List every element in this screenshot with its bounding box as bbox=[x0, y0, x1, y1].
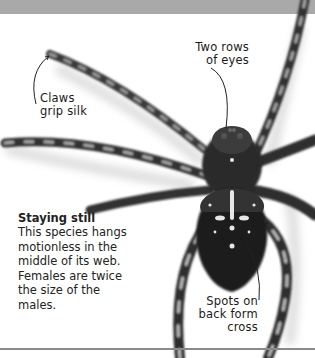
bottom-divider bbox=[0, 348, 315, 350]
annotation-eyes: Two rows of eyes bbox=[157, 41, 249, 67]
annotation-spots: Spots on back form cross bbox=[190, 295, 258, 334]
caption: Staying still This species hangs motionl… bbox=[18, 211, 130, 312]
annotation-claws-line2: grip silk bbox=[40, 105, 87, 118]
annotation-spots-line3: cross bbox=[190, 321, 258, 334]
caption-body: This species hangs motionless in the mid… bbox=[18, 225, 130, 312]
caption-title: Staying still bbox=[18, 211, 130, 225]
annotation-claws: Claws grip silk bbox=[40, 92, 87, 118]
annotation-eyes-line2: of eyes bbox=[157, 54, 249, 67]
